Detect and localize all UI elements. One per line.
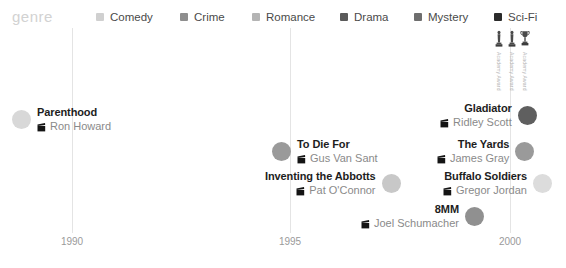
genre-dot[interactable] (518, 106, 537, 125)
clapperboard-icon (296, 186, 305, 196)
film-title: Gladiator (464, 102, 511, 116)
film-text: The YardsJames Gray (437, 138, 509, 166)
film-text: Buffalo SoldiersGregor Jordan (443, 170, 527, 198)
film-director-name: Gregor Jordan (456, 184, 527, 198)
film-text: GladiatorRidley Scott (440, 102, 512, 130)
film-title: The Yards (458, 138, 509, 152)
clapperboard-icon (297, 154, 306, 164)
film-director-row: Gus Van Sant (297, 152, 378, 166)
legend-swatch-icon (180, 13, 188, 21)
clapperboard-icon (361, 219, 370, 229)
legend-item-comedy[interactable]: Comedy (96, 10, 153, 24)
oscar-statuette-icon (507, 30, 517, 50)
award-badge[interactable]: Academy Award (520, 30, 530, 91)
film-entry[interactable]: Buffalo SoldiersGregor Jordan (443, 170, 552, 198)
legend-swatch-icon (494, 13, 502, 21)
legend-swatch-icon (414, 13, 422, 21)
film-text: ParenthoodRon Howard (37, 106, 111, 134)
legend-swatch-icon (340, 13, 348, 21)
legend-item-mystery[interactable]: Mystery (414, 10, 468, 24)
film-title: 8MM (435, 203, 459, 217)
award-badge[interactable]: Academy Award (507, 30, 517, 91)
film-text: To Die ForGus Van Sant (297, 138, 378, 166)
legend-item-crime[interactable]: Crime (180, 10, 225, 24)
clapperboard-icon (443, 186, 452, 196)
film-entry[interactable]: 8MMJoel Schumacher (361, 203, 484, 231)
film-director-name: Joel Schumacher (374, 217, 459, 231)
trophy-cup-icon (520, 30, 530, 50)
film-text: Inventing the AbbottsPat O'Connor (265, 170, 376, 198)
award-badge[interactable]: Academy Award (494, 30, 504, 91)
x-axis-tick-label: 1995 (279, 236, 301, 247)
film-entry[interactable]: The YardsJames Gray (437, 138, 534, 166)
film-entry[interactable]: GladiatorRidley Scott (440, 102, 537, 130)
oscar-statuette-icon (494, 30, 504, 50)
film-entry[interactable]: ParenthoodRon Howard (12, 106, 111, 134)
film-director-row: James Gray (437, 152, 509, 166)
clapperboard-icon (440, 118, 449, 128)
film-director-name: Gus Van Sant (310, 152, 378, 166)
film-director-row: Joel Schumacher (361, 217, 459, 231)
film-title: Buffalo Soldiers (444, 170, 527, 184)
clapperboard-icon (37, 122, 46, 132)
legend-swatch-icon (252, 13, 260, 21)
film-director-name: Pat O'Connor (309, 184, 375, 198)
x-axis-tick-label: 2000 (499, 236, 521, 247)
legend-swatch-icon (96, 13, 104, 21)
film-text: 8MMJoel Schumacher (361, 203, 459, 231)
legend-item-label: Mystery (428, 10, 468, 24)
legend-item-label: Romance (266, 10, 315, 24)
legend-item-drama[interactable]: Drama (340, 10, 389, 24)
film-director-name: Ridley Scott (453, 116, 512, 130)
genre-dot[interactable] (465, 207, 484, 226)
legend-item-label: Comedy (110, 10, 153, 24)
legend-item-label: Sci-Fi (508, 10, 537, 24)
legend-item-label: Crime (194, 10, 225, 24)
genre-dot[interactable] (533, 174, 552, 193)
film-director-name: James Gray (450, 152, 509, 166)
genre-dot[interactable] (272, 142, 291, 161)
legend-item-sci-fi[interactable]: Sci-Fi (494, 10, 537, 24)
film-director-row: Gregor Jordan (443, 184, 527, 198)
legend-item-label: Drama (354, 10, 389, 24)
genre-dot[interactable] (515, 142, 534, 161)
film-director-row: Ridley Scott (440, 116, 512, 130)
x-axis-tick-label: 1990 (61, 236, 83, 247)
film-director-row: Pat O'Connor (296, 184, 375, 198)
legend-item-romance[interactable]: Romance (252, 10, 315, 24)
clapperboard-icon (437, 154, 446, 164)
film-director-name: Ron Howard (50, 120, 111, 134)
film-title: To Die For (297, 138, 350, 152)
film-entry[interactable]: To Die ForGus Van Sant (272, 138, 378, 166)
gridline-1995 (290, 28, 291, 233)
genre-dot[interactable] (382, 174, 401, 193)
genre-dot[interactable] (12, 110, 31, 129)
film-title: Parenthood (37, 106, 97, 120)
film-title: Inventing the Abbotts (265, 170, 376, 184)
film-entry[interactable]: Inventing the AbbottsPat O'Connor (265, 170, 401, 198)
award-label: Academy Award (496, 52, 502, 91)
film-director-row: Ron Howard (37, 120, 111, 134)
award-badges: Academy AwardAcademy AwardAcademy Award (494, 30, 530, 91)
award-label: Academy Award (522, 52, 528, 91)
chart-title: genre (12, 8, 53, 26)
timeline-chart: genre ComedyCrimeRomanceDramaMysterySci-… (0, 0, 566, 268)
award-label: Academy Award (509, 52, 515, 91)
